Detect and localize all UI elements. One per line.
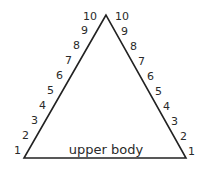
left-tick-8: 8: [73, 39, 80, 52]
triangle-diagram: 1 2 3 4 5 6 7 8 9 10 1 2 3 4 5 6 7 8 9 1…: [0, 0, 201, 172]
left-tick-3: 3: [31, 114, 38, 127]
right-tick-6: 6: [147, 70, 154, 83]
right-tick-5: 5: [155, 85, 162, 98]
right-tick-4: 4: [163, 100, 170, 113]
left-tick-7: 7: [65, 54, 72, 67]
right-tick-1: 1: [188, 145, 195, 158]
left-tick-10: 10: [83, 10, 97, 23]
right-tick-8: 8: [130, 40, 137, 53]
base-label: upper body: [69, 142, 144, 157]
right-tick-3: 3: [171, 115, 178, 128]
right-scale: 1 2 3 4 5 6 7 8 9 10: [115, 10, 195, 158]
right-tick-10: 10: [115, 10, 129, 23]
right-tick-9: 9: [121, 25, 128, 38]
right-tick-7: 7: [138, 55, 145, 68]
left-tick-2: 2: [22, 129, 29, 142]
right-tick-2: 2: [180, 130, 187, 143]
left-scale: 1 2 3 4 5 6 7 8 9 10: [14, 10, 97, 157]
left-tick-9: 9: [81, 24, 88, 37]
left-tick-4: 4: [39, 99, 46, 112]
left-tick-1: 1: [14, 144, 21, 157]
left-tick-6: 6: [56, 69, 63, 82]
left-tick-5: 5: [47, 84, 54, 97]
